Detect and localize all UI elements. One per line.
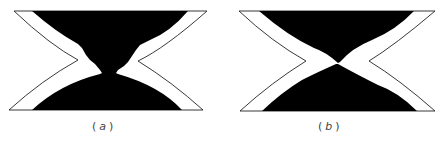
figure-drawing <box>0 0 446 146</box>
caption-a-close: ) <box>109 120 116 133</box>
caption-a-label: a <box>99 120 109 133</box>
caption-b-label: b <box>325 120 335 133</box>
panel-a <box>9 11 207 110</box>
caption-b: (b) <box>318 120 343 133</box>
figure: (a) (b) <box>0 0 446 146</box>
caption-a: (a) <box>92 120 116 133</box>
panel-b <box>239 11 435 111</box>
caption-b-close: ) <box>335 120 342 133</box>
